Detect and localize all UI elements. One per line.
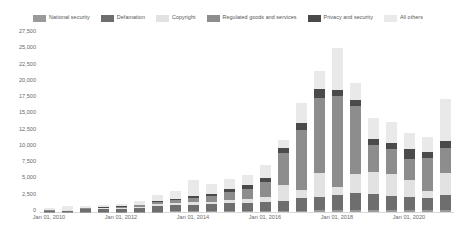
bar-column[interactable] <box>364 33 382 212</box>
bar-stack <box>350 83 361 212</box>
legend-label: Copyright <box>172 15 196 20</box>
bar-segment <box>404 159 415 180</box>
bar-segment <box>242 211 253 212</box>
legend-swatch-icon <box>384 15 397 22</box>
bar-stack <box>224 179 235 212</box>
bar-segment <box>260 202 271 211</box>
legend-item-national-security[interactable]: National security <box>33 15 90 22</box>
bar-column[interactable] <box>418 33 436 212</box>
bar-stack <box>188 180 199 212</box>
bar-segment <box>170 191 181 199</box>
bar-column[interactable] <box>238 33 256 212</box>
legend-swatch-icon <box>33 15 46 22</box>
bar-column[interactable] <box>112 33 130 212</box>
bar-segment <box>386 210 397 212</box>
bar-segment <box>206 204 217 211</box>
bar-segment <box>278 153 289 186</box>
bar-segment <box>422 198 433 210</box>
x-axis-baseline <box>40 212 454 213</box>
bar-column[interactable] <box>40 33 58 212</box>
legend-item-copyright[interactable]: Copyright <box>156 15 196 22</box>
y-axis-tick-label: 0 <box>0 208 36 214</box>
bar-segment <box>242 203 253 211</box>
y-axis-tick-label: 17,500 <box>0 94 36 100</box>
bar-column[interactable] <box>328 33 346 212</box>
bar-segment <box>368 194 379 210</box>
legend-item-privacy-and-security[interactable]: Privacy and security <box>308 15 373 22</box>
bar-column[interactable] <box>436 33 454 212</box>
bar-segment <box>278 185 289 201</box>
x-axis-tick-label: Jan 01, 2018 <box>321 215 353 221</box>
bar-stack <box>206 184 217 212</box>
bar-column[interactable] <box>94 33 112 212</box>
bar-segment <box>368 210 379 212</box>
bar-column[interactable] <box>58 33 76 212</box>
bar-segment <box>314 197 325 211</box>
bar-segment <box>404 180 415 197</box>
bar-column[interactable] <box>184 33 202 212</box>
bar-segment <box>296 103 307 123</box>
bar-segment <box>350 210 361 212</box>
bar-column[interactable] <box>382 33 400 212</box>
y-axis-tick-label: 12,500 <box>0 127 36 133</box>
bar-column[interactable] <box>202 33 220 212</box>
bar-segment <box>314 71 325 89</box>
bar-column[interactable] <box>256 33 274 212</box>
bar-column[interactable] <box>346 33 364 212</box>
bar-stack <box>134 201 145 212</box>
bar-stack <box>152 195 163 212</box>
bar-segment <box>368 145 379 172</box>
y-axis-tick-label: 25,000 <box>0 45 36 51</box>
legend-label: Privacy and security <box>324 15 373 20</box>
bar-column[interactable] <box>292 33 310 212</box>
bar-segment <box>224 203 235 211</box>
bar-column[interactable] <box>166 33 184 212</box>
bar-segment <box>350 106 361 174</box>
bar-segment <box>332 187 343 195</box>
bar-segment <box>422 191 433 198</box>
bar-column[interactable] <box>400 33 418 212</box>
bar-stack <box>296 103 307 212</box>
y-axis-tick-label: 20,000 <box>0 78 36 84</box>
x-axis-tick-label: Jan 01, 2016 <box>249 215 281 221</box>
bar-segment <box>188 180 199 196</box>
y-axis-tick-label: 27,500 <box>0 29 36 35</box>
bar-segment <box>260 182 271 196</box>
y-axis-tick-label: 10,000 <box>0 143 36 149</box>
bar-column[interactable] <box>148 33 166 212</box>
bar-segment <box>350 193 361 210</box>
bar-stack <box>440 99 451 212</box>
bar-column[interactable] <box>76 33 94 212</box>
legend-swatch-icon <box>156 15 169 22</box>
bar-segment <box>188 211 199 212</box>
bar-stack <box>386 122 397 212</box>
bar-column[interactable] <box>310 33 328 212</box>
bar-segment <box>440 148 451 172</box>
bar-segment <box>296 190 307 198</box>
bar-column[interactable] <box>130 33 148 212</box>
bar-stack <box>260 165 271 212</box>
bar-stack <box>80 206 91 212</box>
bar-column[interactable] <box>220 33 238 212</box>
legend-label: National security <box>49 15 90 20</box>
legend-item-defamation[interactable]: Defamation <box>101 15 145 22</box>
bar-segment <box>386 149 397 174</box>
legend-item-regulated-goods-and-services[interactable]: Regulated goods and services <box>207 15 297 22</box>
legend-label: Defamation <box>117 15 145 20</box>
bar-segment <box>314 210 325 212</box>
bar-segment <box>332 48 343 90</box>
legend-label: Regulated goods and services <box>223 15 297 20</box>
bar-segment <box>314 98 325 173</box>
bar-segment <box>440 141 451 148</box>
bar-segment <box>368 118 379 139</box>
bar-stack <box>332 48 343 212</box>
legend-item-all-others[interactable]: All others <box>384 15 423 22</box>
bar-stack <box>242 175 253 212</box>
bar-stack <box>368 118 379 212</box>
bar-segment <box>314 173 325 196</box>
bar-column[interactable] <box>274 33 292 212</box>
bar-segment <box>332 96 343 187</box>
x-axis-tick-label: Jan 01, 2014 <box>177 215 209 221</box>
x-axis: Jan 01, 2010Jan 01, 2012Jan 01, 2014Jan … <box>40 215 454 229</box>
bar-stack <box>170 191 181 212</box>
